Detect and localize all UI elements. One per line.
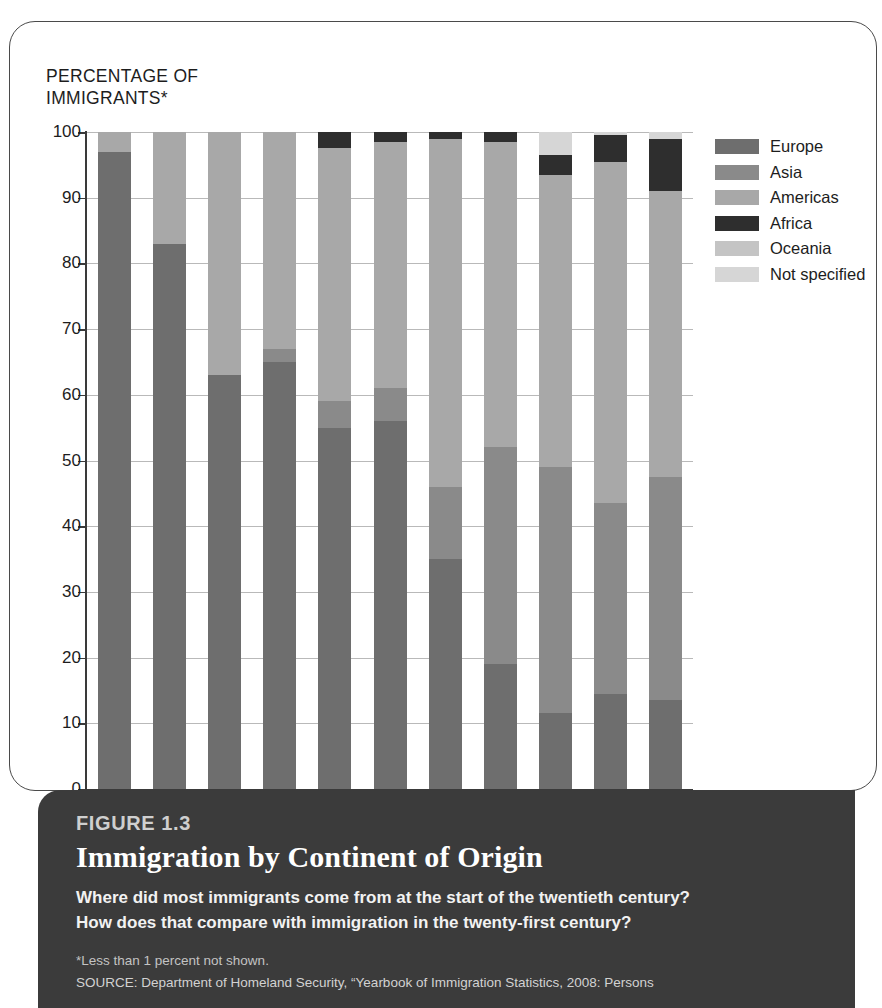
y-axis-title: PERCENTAGE OF IMMIGRANTS*	[46, 65, 198, 109]
bar-segment-americas[interactable]	[318, 148, 351, 401]
bar-segment-not-specified[interactable]	[594, 132, 627, 135]
bar-segment-americas[interactable]	[429, 139, 462, 487]
bar-segment-americas[interactable]	[98, 132, 131, 152]
bar-1990s[interactable]	[594, 132, 627, 789]
legend-item-americas[interactable]: Americas	[715, 185, 865, 211]
bar-segment-asia[interactable]	[484, 447, 517, 664]
legend-swatch-icon	[715, 190, 759, 205]
bar-segment-africa[interactable]	[429, 132, 462, 139]
legend-item-oceania[interactable]: Oceania	[715, 236, 865, 262]
legend-label: Oceania	[770, 239, 831, 258]
bar-segment-europe[interactable]	[98, 152, 131, 789]
legend-label: Americas	[770, 188, 839, 207]
legend-item-africa[interactable]: Africa	[715, 211, 865, 237]
bar-segment-europe[interactable]	[484, 664, 517, 789]
bar-segment-americas[interactable]	[594, 162, 627, 504]
bar-segment-americas[interactable]	[263, 132, 296, 349]
bar-segment-africa[interactable]	[374, 132, 407, 142]
caption-panel: FIGURE 1.3 Immigration by Continent of O…	[38, 790, 855, 1008]
y-tick-label: 40	[35, 516, 81, 536]
legend-label: Asia	[770, 163, 802, 182]
legend-swatch-icon	[715, 139, 759, 154]
bar-1910s[interactable]	[153, 132, 186, 789]
y-tick-label: 100	[35, 122, 81, 142]
bar-segment-asia[interactable]	[539, 467, 572, 713]
y-tick-label: 10	[35, 713, 81, 733]
bar-segment-asia[interactable]	[429, 487, 462, 559]
legend-item-not-specified[interactable]: Not specified	[715, 262, 865, 288]
bar-1900s[interactable]	[98, 132, 131, 789]
bar-2000s[interactable]	[649, 132, 682, 789]
bar-1970s[interactable]	[484, 132, 517, 789]
bar-segment-africa[interactable]	[594, 135, 627, 161]
figure-number: FIGURE 1.3	[76, 812, 855, 835]
bar-segment-africa[interactable]	[318, 132, 351, 148]
bar-segment-not-specified[interactable]	[649, 132, 682, 139]
legend-label: Not specified	[770, 265, 865, 284]
figure-title: Immigration by Continent of Origin	[76, 840, 855, 874]
legend-swatch-icon	[715, 165, 759, 180]
bar-segment-not-specified[interactable]	[539, 132, 572, 155]
y-tick-label: 20	[35, 648, 81, 668]
bar-segment-europe[interactable]	[594, 694, 627, 789]
legend-swatch-icon	[715, 267, 759, 282]
bar-segment-europe[interactable]	[539, 713, 572, 789]
y-tick-label: 30	[35, 582, 81, 602]
bar-segment-asia[interactable]	[263, 349, 296, 362]
bar-segment-americas[interactable]	[649, 191, 682, 477]
figure-card: PERCENTAGE OF IMMIGRANTS* 01020304050607…	[9, 21, 877, 791]
bar-segment-asia[interactable]	[594, 503, 627, 694]
bar-1980s[interactable]	[539, 132, 572, 789]
bar-segment-americas[interactable]	[374, 142, 407, 388]
figure-footnote: *Less than 1 percent not shown.	[76, 951, 855, 971]
bar-1920s[interactable]	[208, 132, 241, 789]
bar-segment-africa[interactable]	[484, 132, 517, 142]
bar-segment-asia[interactable]	[649, 477, 682, 700]
y-tick-label: 90	[35, 188, 81, 208]
bar-segment-asia[interactable]	[374, 388, 407, 421]
y-tick-label: 80	[35, 253, 81, 273]
bar-segment-europe[interactable]	[429, 559, 462, 789]
bar-segment-europe[interactable]	[208, 375, 241, 789]
bar-1940s[interactable]	[318, 132, 351, 789]
bar-segment-europe[interactable]	[263, 362, 296, 789]
legend-swatch-icon	[715, 216, 759, 231]
legend-swatch-icon	[715, 241, 759, 256]
legend-item-asia[interactable]: Asia	[715, 160, 865, 186]
y-tick-label: 60	[35, 385, 81, 405]
y-tick-label: 70	[35, 319, 81, 339]
bar-segment-asia[interactable]	[318, 401, 351, 427]
figure-question: Where did most immigrants come from at t…	[76, 885, 716, 935]
legend-label: Africa	[770, 214, 812, 233]
figure-source: SOURCE: Department of Homeland Security,…	[76, 973, 855, 993]
bar-1950s[interactable]	[374, 132, 407, 789]
legend-item-europe[interactable]: Europe	[715, 134, 865, 160]
bar-1930s[interactable]	[263, 132, 296, 789]
bar-segment-europe[interactable]	[153, 244, 186, 789]
bar-segment-europe[interactable]	[318, 428, 351, 789]
chart-plot-area: 0102030405060708090100 1900s1910s1920s19…	[87, 132, 693, 789]
bar-segment-americas[interactable]	[484, 142, 517, 448]
bar-segment-africa[interactable]	[649, 139, 682, 192]
bar-segment-americas[interactable]	[208, 132, 241, 375]
bar-segment-europe[interactable]	[649, 700, 682, 789]
bar-segment-europe[interactable]	[374, 421, 407, 789]
chart-legend: EuropeAsiaAmericasAfricaOceaniaNot speci…	[715, 134, 865, 287]
bar-segment-americas[interactable]	[153, 132, 186, 244]
y-tick-label: 50	[35, 451, 81, 471]
bar-1960s[interactable]	[429, 132, 462, 789]
bar-segment-americas[interactable]	[539, 175, 572, 467]
bar-segment-africa[interactable]	[539, 155, 572, 175]
legend-label: Europe	[770, 137, 823, 156]
